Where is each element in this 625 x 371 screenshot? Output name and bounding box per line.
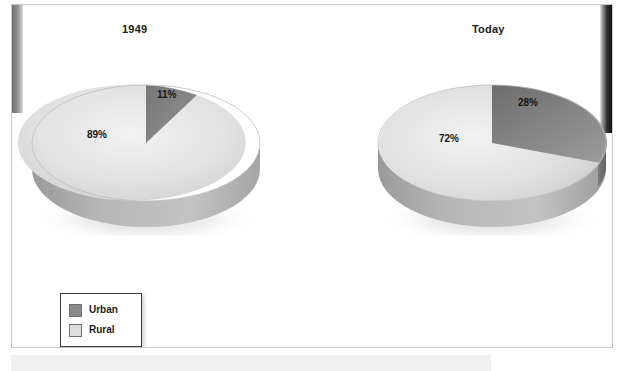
- scan-artifact-bottom-band: [11, 355, 491, 371]
- pie-today-label-urban: 28%: [518, 97, 538, 108]
- pie-1949-label-urban: 11%: [157, 89, 176, 100]
- pie-chart-today: [362, 51, 613, 236]
- legend-label-urban: Urban: [89, 305, 118, 315]
- urban-swatch: [69, 304, 82, 317]
- legend-label-rural: Rural: [89, 325, 115, 335]
- pie-1949-graphic: [16, 51, 282, 236]
- pie-chart-1949: [16, 51, 282, 236]
- pie-1949-label-rural: 89%: [87, 129, 107, 140]
- rural-swatch: [69, 324, 82, 337]
- pie-today-label-rural: 72%: [439, 133, 459, 144]
- pie-today-graphic: [362, 51, 613, 236]
- chart-legend: Urban Rural: [60, 293, 142, 347]
- chart-title-today: Today: [472, 23, 505, 35]
- pie-1949-slice-rural: [18, 85, 246, 201]
- legend-item-urban: Urban: [69, 300, 141, 320]
- chart-title-1949: 1949: [122, 23, 147, 35]
- legend-item-rural: Rural: [69, 320, 141, 340]
- scanned-page: 1949 Today: [11, 4, 613, 348]
